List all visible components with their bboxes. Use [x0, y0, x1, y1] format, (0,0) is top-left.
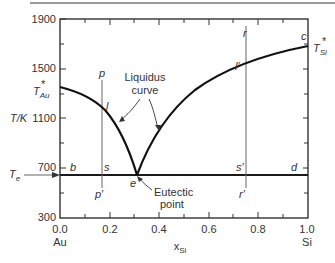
x-tick-label: 0.2	[102, 223, 117, 235]
point-c: c	[301, 30, 307, 42]
point-p-prime: p′	[94, 188, 104, 200]
point-p: p	[98, 67, 105, 79]
x-axis-labels: 0.0 0.2 0.4 0.6 0.8 1.0 Au Si	[52, 223, 314, 248]
x-tick-label: 0.8	[250, 223, 265, 235]
point-r-prime: r′	[239, 188, 246, 200]
liquidus-curve-si	[137, 46, 308, 175]
point-l: l	[106, 100, 109, 112]
x-tick-label: 0.6	[201, 223, 216, 235]
x-tick-label: 0.4	[151, 223, 166, 235]
y-axis-label: T/K	[10, 112, 28, 124]
point-d: d	[291, 161, 298, 173]
point-r: r	[243, 27, 248, 39]
point-e: e	[130, 177, 136, 189]
phase-diagram: 1900 1500 1100 700 300 T/K 0.0 0.2 0.4 0…	[0, 0, 335, 263]
si-label: Si	[302, 236, 312, 248]
x-tick-label: 1.0	[299, 223, 314, 235]
y-tick-label: 1100	[32, 112, 56, 124]
x-tick-label: 0.0	[52, 223, 67, 235]
te-label: Te	[9, 168, 21, 183]
point-b: b	[70, 161, 76, 173]
liquidus-callout-arrow-right	[149, 99, 158, 128]
y-tick-label: 1500	[32, 62, 56, 74]
t-si-star: *	[322, 35, 327, 47]
liquidus-label-line1: Liquidus	[125, 71, 166, 83]
y-tick-label: 300	[38, 211, 56, 223]
liquidus-callout-arrow-left	[121, 99, 140, 120]
eutectic-label-line1: Eutectic	[154, 186, 194, 198]
y-tick-label: 1900	[32, 13, 56, 25]
eutectic-label-line2: point	[160, 198, 184, 210]
y-axis-ticks	[60, 19, 308, 193]
te-arrowhead-icon	[52, 172, 60, 178]
point-s-prime: s′	[236, 161, 245, 173]
t-au-star: *	[41, 78, 46, 90]
y-tick-label: 700	[38, 161, 56, 173]
liquidus-label-line2: curve	[132, 84, 159, 96]
x-axis-label: xSi	[174, 240, 187, 255]
au-label: Au	[53, 236, 66, 248]
y-axis-labels: 1900 1500 1100 700 300	[32, 13, 56, 223]
point-s: s	[104, 161, 110, 173]
